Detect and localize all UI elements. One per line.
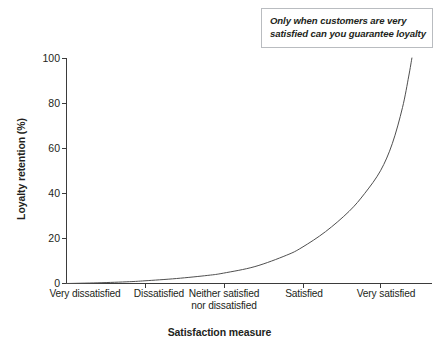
x-tick-label-satisfied: Satisfied	[273, 288, 335, 300]
annotation-line-1: Only when customers are very	[270, 15, 425, 28]
x-tick-label-line2: nor dissatisfied	[169, 300, 279, 312]
y-tick-label-100: 100	[34, 53, 60, 64]
y-tick-label-group: 100 80 60 40 20 0	[30, 0, 60, 354]
y-tick-label-0: 0	[34, 278, 60, 289]
y-tick-label-40: 40	[34, 188, 60, 199]
y-tick-label-80: 80	[34, 98, 60, 109]
x-tick-label-line1: Very satisfied	[357, 288, 416, 299]
chart-figure: 100 80 60 40 20 0 Loyalty retention (%) …	[0, 0, 439, 354]
x-tick-label-very-satisfied: Very satisfied	[340, 288, 432, 300]
y-axis-title: Loyalty retention (%)	[15, 99, 27, 239]
x-axis-title: Satisfaction measure	[0, 326, 439, 338]
x-tick-label-neither: Neither satisfied nor dissatisfied	[169, 288, 279, 312]
annotation-line-2: satisfied can you guarantee loyalty	[270, 28, 425, 41]
y-axis-ticks	[62, 59, 67, 284]
x-tick-label-line1: Satisfied	[285, 288, 323, 299]
x-tick-label-line1: Very dissatisfied	[49, 288, 120, 299]
x-tick-label-line1: Neither satisfied	[189, 288, 260, 299]
annotation-callout: Only when customers are very satisfied c…	[261, 8, 433, 48]
y-tick-label-60: 60	[34, 143, 60, 154]
loyalty-curve	[67, 58, 412, 284]
y-tick-label-20: 20	[34, 233, 60, 244]
